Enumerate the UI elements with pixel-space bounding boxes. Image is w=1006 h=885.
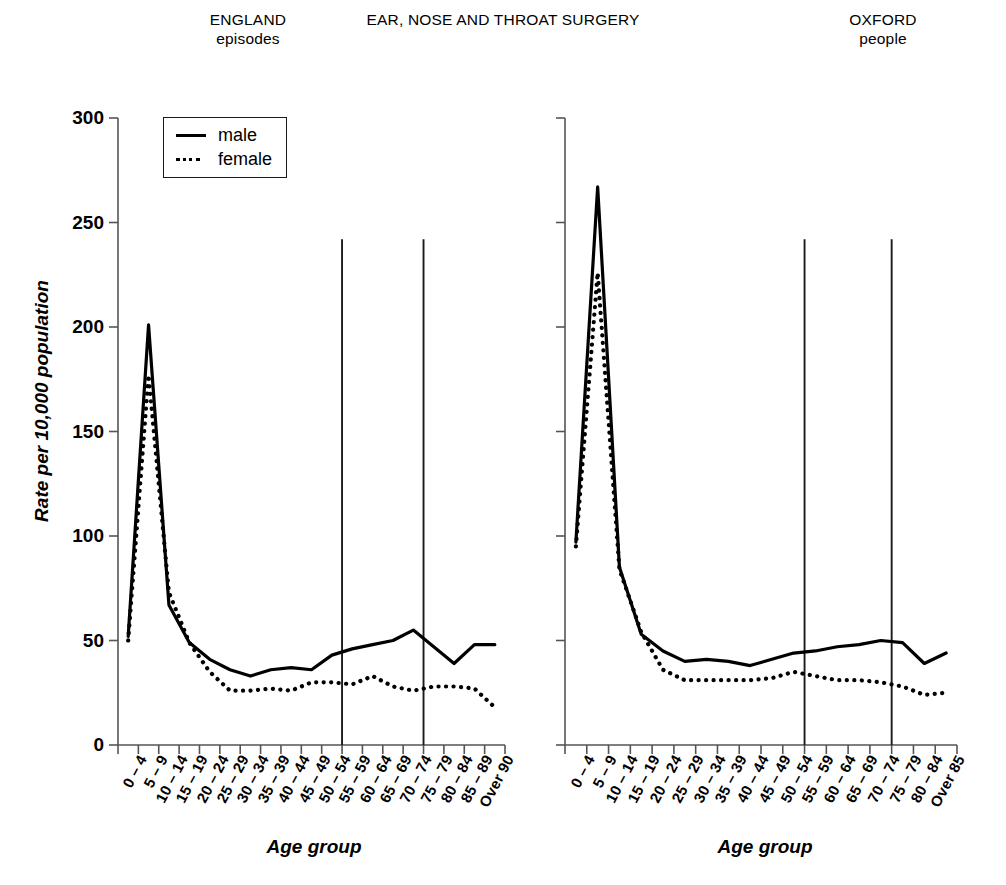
x-axis-title-oxford: Age group (565, 836, 965, 858)
legend-item-male: male (174, 123, 272, 147)
series-line-female (576, 273, 946, 695)
line-solid-icon (174, 128, 208, 142)
line-dotted-icon (174, 152, 208, 166)
chart-page: ENGLAND episodes EAR, NOSE AND THROAT SU… (0, 0, 1006, 885)
legend-label-male: male (218, 125, 257, 146)
legend-item-female: female (174, 147, 272, 171)
legend-label-female: female (218, 149, 272, 170)
x-axis-title-england: Age group (118, 836, 510, 858)
panel-oxford: 0 – 45 – 910 – 1415 – 1920 – 2425 – 2930… (447, 0, 977, 885)
series-line-male (576, 187, 946, 666)
chart-legend: male female (163, 117, 287, 178)
plot-area (447, 0, 977, 885)
series-line-female (128, 375, 495, 707)
